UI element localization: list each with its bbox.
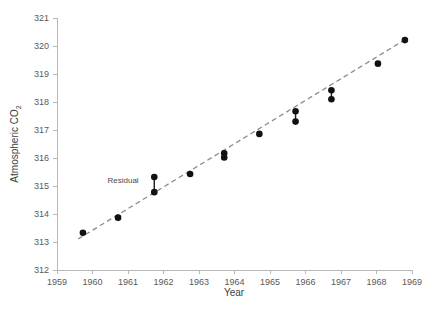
trendline [78,39,406,239]
data-point: 1962.8, 315.43 [187,171,194,178]
y-tick-label: 312 [34,265,49,275]
y-tick-label: 320 [34,41,49,51]
x-tick-label: 1967 [331,277,351,287]
data-point: 1961.7, 314.78 [151,189,158,196]
x-tick-label: 1965 [260,277,280,287]
x-axis-title: Year [224,287,245,298]
y-tick-label: 315 [34,181,49,191]
data-point: 1966.7, 318.42 [328,87,335,94]
x-tick-label: 1960 [82,277,102,287]
y-tick-label: 314 [34,209,49,219]
axes-group [57,18,412,270]
y-axis-ticks: 312313314315316317318319320321 [34,13,57,275]
y-axis-title-group: Atmospheric CO2 [9,105,22,182]
y-tick-label: 319 [34,69,49,79]
data-point: 1960.7, 313.87 [115,214,122,221]
x-tick-label: 1966 [295,277,315,287]
co2-scatter-plot: 312313314315316317318319320321 195919601… [0,0,433,309]
x-tick-label: 1969 [402,277,422,287]
data-point: 1963.7, 316.02 [221,154,228,161]
data-point: 1959.7, 313.33 [80,229,87,236]
x-tick-label: 1959 [47,277,67,287]
data-point: 1965.7, 317.30 [292,118,299,125]
x-axis-ticks: 1959196019611962196319641965196619671968… [47,270,422,287]
y-tick-label: 317 [34,125,49,135]
x-tick-label: 1968 [366,277,386,287]
data-point: 1965.7, 317.67 [292,108,299,115]
residual-annotation-label: Residual [108,176,139,185]
chart-container: 312313314315316317318319320321 195919601… [0,0,433,309]
data-point: 1964.7, 316.86 [256,131,263,138]
y-tick-label: 318 [34,97,49,107]
data-point: 1968.8, 320.21 [402,37,409,44]
data-point: 1968.0, 319.37 [375,60,382,67]
residual-annotation: Residual [108,176,139,185]
data-points-group: 1959.7, 313.331960.7, 313.871961.7, 315.… [80,37,409,236]
data-point: 1966.7, 318.10 [328,96,335,103]
x-tick-label: 1963 [189,277,209,287]
y-axis-title: Atmospheric CO2 [9,105,22,182]
x-tick-label: 1964 [224,277,244,287]
y-tick-label: 321 [34,13,49,23]
x-tick-label: 1962 [153,277,173,287]
y-tick-label: 316 [34,153,49,163]
data-point: 1961.7, 315.32 [151,174,158,181]
x-tick-label: 1961 [118,277,138,287]
y-tick-label: 313 [34,237,49,247]
